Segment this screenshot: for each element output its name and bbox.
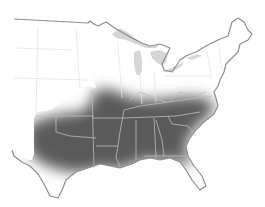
map-canvas bbox=[0, 0, 265, 207]
range-map bbox=[0, 0, 265, 207]
